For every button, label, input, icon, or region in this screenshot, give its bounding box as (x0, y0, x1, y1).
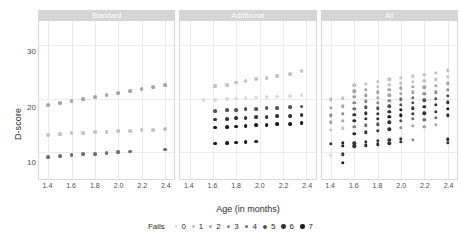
data-point (434, 91, 437, 94)
legend-item[interactable]: 1 (192, 222, 203, 231)
data-point (265, 95, 269, 99)
data-point (364, 124, 367, 127)
data-point (254, 140, 258, 144)
data-point (234, 117, 238, 121)
data-point (151, 85, 155, 89)
data-point (329, 154, 332, 157)
data-point (116, 129, 120, 133)
data-point (353, 84, 356, 87)
data-point (434, 84, 437, 87)
data-point (364, 106, 367, 109)
data-point (254, 107, 258, 111)
legend-label: 4 (252, 222, 256, 231)
data-point (254, 96, 258, 100)
data-point (423, 118, 426, 121)
legend-item[interactable]: 2 (209, 222, 221, 231)
gridline-vertical (283, 21, 284, 179)
data-point (213, 142, 217, 146)
facet-panel: Additional1.41.61.82.02.22.4 (179, 10, 316, 192)
data-point (353, 113, 356, 116)
data-point (128, 150, 132, 154)
data-point (254, 116, 258, 120)
y-tick-label: 20 (27, 102, 36, 111)
data-point (388, 121, 391, 124)
facet-panels: Standard1.41.61.82.02.22.4Additional1.41… (38, 10, 458, 192)
legend-item[interactable]: 7 (300, 222, 313, 231)
data-point (353, 132, 356, 135)
data-point (329, 114, 332, 117)
data-point (341, 126, 344, 129)
data-point (288, 114, 292, 118)
data-point (265, 123, 269, 127)
data-point (446, 69, 449, 72)
legend-swatch-icon (209, 225, 212, 228)
data-point (423, 86, 426, 89)
plot-area (321, 21, 458, 180)
legend-label: 3 (234, 222, 238, 231)
data-point (364, 94, 367, 97)
data-point (341, 119, 344, 122)
data-point (353, 107, 356, 110)
data-point (265, 115, 269, 119)
data-point (423, 99, 426, 102)
data-point (300, 94, 304, 98)
data-point (388, 127, 391, 130)
data-point (423, 79, 426, 82)
facet-strip-label: Standard (38, 10, 175, 21)
data-point (388, 99, 391, 102)
x-tick-label: 2.2 (279, 182, 289, 189)
data-point (70, 99, 74, 103)
data-point (329, 97, 332, 100)
data-point (329, 121, 332, 124)
data-point (376, 91, 379, 94)
data-point (388, 141, 391, 144)
data-point (46, 133, 50, 137)
data-point (116, 91, 120, 95)
gridline-horizontal (39, 99, 174, 100)
x-axis-ticks: 1.41.61.82.02.22.4 (321, 180, 458, 192)
data-point (244, 96, 248, 100)
data-point (275, 74, 279, 78)
data-point (423, 105, 426, 108)
data-point (151, 128, 155, 132)
x-tick-label: 2.0 (255, 182, 265, 189)
data-point (399, 114, 402, 117)
data-point (70, 154, 74, 158)
data-point (202, 98, 206, 102)
legend-item[interactable]: 5 (263, 222, 275, 231)
data-point (46, 103, 50, 107)
legend-item[interactable]: 4 (245, 222, 257, 231)
data-point (411, 107, 414, 110)
data-point (399, 140, 402, 143)
facet-strip-label: Additional (179, 10, 316, 21)
x-tick-label: 2.2 (137, 182, 147, 189)
legend-item[interactable]: 0 (175, 222, 186, 231)
data-point (388, 94, 391, 97)
legend-item[interactable]: 3 (227, 222, 239, 231)
data-point (364, 131, 367, 134)
data-point (288, 105, 292, 109)
data-point (388, 104, 391, 107)
legend-title: Fails (148, 222, 165, 231)
legend: Fails 01234567 (0, 222, 461, 231)
x-tick-label: 1.6 (66, 182, 76, 189)
legend-item[interactable]: 6 (281, 222, 294, 231)
data-point (213, 118, 217, 122)
data-point (446, 107, 449, 110)
data-point (411, 112, 414, 115)
gridline-horizontal (322, 45, 457, 46)
data-point (434, 97, 437, 100)
data-point (434, 78, 437, 81)
data-point (341, 144, 344, 147)
gridline-vertical (260, 21, 261, 179)
legend-label: 7 (309, 222, 313, 231)
data-point (58, 132, 62, 136)
data-point (213, 84, 217, 88)
data-point (399, 92, 402, 95)
x-tick-label: 1.8 (373, 182, 383, 189)
x-tick-label: 2.4 (302, 182, 312, 189)
gridline-vertical (142, 21, 143, 179)
data-point (213, 126, 217, 130)
data-point (446, 114, 449, 117)
data-point (388, 115, 391, 118)
